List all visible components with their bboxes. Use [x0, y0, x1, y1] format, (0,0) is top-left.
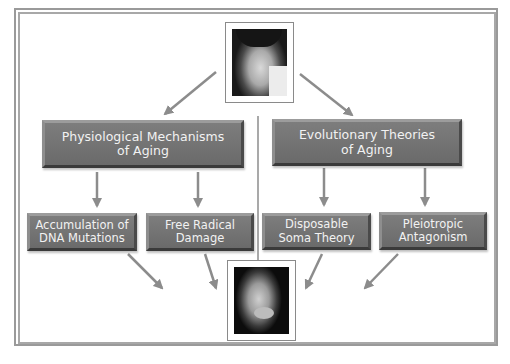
young-portrait-frame: [225, 22, 294, 103]
box-title-line1: Evolutionary Theories: [299, 128, 435, 142]
evolutionary-theories-box: Evolutionary Theories of Aging: [272, 119, 462, 166]
box-line2: Antagonism: [399, 231, 468, 244]
shirt-shape: [269, 66, 287, 96]
box-title-line2: of Aging: [299, 143, 435, 157]
box-line2: Damage: [165, 232, 235, 245]
disposable-soma-box: Disposable Soma Theory: [262, 213, 371, 250]
hair-shape: [236, 29, 282, 47]
box-line2: Soma Theory: [278, 232, 354, 245]
box-title-line2: of Aging: [62, 144, 225, 158]
free-radical-damage-box: Free Radical Damage: [146, 213, 254, 251]
dna-mutations-box: Accumulation of DNA Mutations: [27, 213, 137, 251]
pleiotropic-antagonism-box: Pleiotropic Antagonism: [379, 212, 487, 250]
older-portrait-frame: [227, 260, 296, 341]
physiological-mechanisms-box: Physiological Mechanisms of Aging: [42, 120, 244, 168]
box-line1: Disposable: [278, 218, 354, 231]
young-portrait-image: [232, 29, 287, 96]
older-portrait-image: [234, 267, 289, 334]
beard-shape: [254, 307, 274, 319]
box-title-line1: Physiological Mechanisms: [62, 130, 225, 144]
box-line2: DNA Mutations: [35, 232, 128, 245]
